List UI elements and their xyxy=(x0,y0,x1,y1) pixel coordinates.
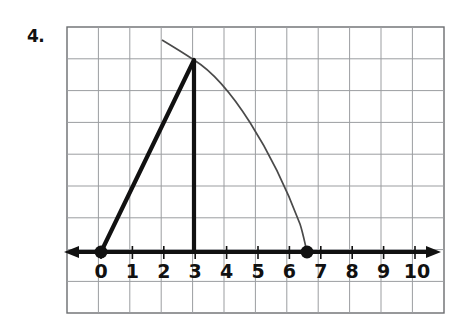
worksheet-page: 4. xyxy=(0,0,464,324)
axis-label-10: 10 xyxy=(404,260,430,282)
axis-label-6: 6 xyxy=(283,260,296,282)
axis-label-9: 9 xyxy=(377,260,390,282)
landing-point-marker xyxy=(301,246,314,259)
axis-label-4: 4 xyxy=(220,260,233,282)
origin-point-marker xyxy=(95,246,108,259)
axis-label-2: 2 xyxy=(157,260,170,282)
axis-label-1: 1 xyxy=(126,260,139,282)
graph-figure: 0 1 2 3 4 5 6 7 8 9 10 xyxy=(0,0,464,324)
axis-label-5: 5 xyxy=(251,260,264,282)
axis-label-7: 7 xyxy=(314,260,327,282)
axis-label-0: 0 xyxy=(94,260,107,282)
axis-label-3: 3 xyxy=(189,260,202,282)
axis-label-8: 8 xyxy=(346,260,359,282)
